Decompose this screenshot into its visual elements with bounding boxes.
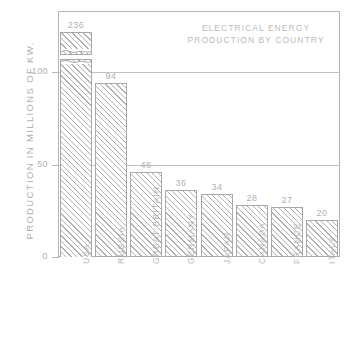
bar-value-label-germany: 36	[165, 178, 197, 188]
category-label-russia: RUSSIA	[116, 226, 126, 264]
chart-title-line1: ELECTRICAL ENERGY	[186, 22, 326, 34]
bar-value-label-japan: 34	[201, 182, 233, 192]
category-label-japan: JAPAN	[222, 232, 232, 264]
category-label-germany: GERMANY	[186, 213, 196, 264]
bar-usa-lower-segment	[60, 59, 92, 257]
ytick-0	[52, 257, 59, 258]
y-axis-title: PRODUCTION IN MILLIONS OF KW.	[24, 26, 35, 256]
bar-chart: 100 50 0 PRODUCTION IN MILLIONS OF KW. E…	[0, 0, 351, 345]
category-label-usa: USA	[81, 243, 91, 264]
bar-value-label-france: 27	[271, 195, 303, 205]
axis-break-wave-lower	[61, 59, 91, 65]
bar-value-label-italy: 20	[306, 208, 338, 218]
bar-value-label-great-britain: 46	[130, 160, 162, 170]
axis-break-wave-upper	[61, 49, 91, 55]
ytick-100	[52, 72, 59, 73]
chart-title: ELECTRICAL ENERGY PRODUCTION BY COUNTRY	[186, 22, 326, 46]
category-label-canada: CANADA	[257, 222, 267, 264]
bar-value-label-usa: 236	[60, 20, 92, 30]
chart-title-line2: PRODUCTION BY COUNTRY	[186, 34, 326, 46]
bar-usa-upper-segment	[60, 32, 92, 55]
ytick-50	[52, 165, 59, 166]
category-label-great-britain: GREAT BRITAIN	[151, 186, 161, 264]
bar-value-label-canada: 28	[236, 193, 268, 203]
category-label-france: FRANCE	[292, 222, 302, 264]
category-label-italy: ITALY	[327, 236, 337, 264]
bar-value-label-russia: 94	[95, 71, 127, 81]
